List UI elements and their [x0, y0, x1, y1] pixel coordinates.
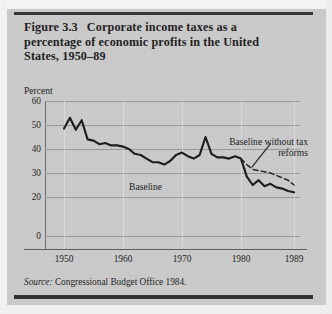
x-tick-label-1950: 1950: [44, 254, 84, 264]
x-tick-label-1989: 1989: [274, 254, 314, 264]
x-axis-line: [24, 249, 307, 250]
y-axis-title: Percent: [24, 85, 53, 96]
figure-source: Source: Congressional Budget Office 1984…: [24, 277, 186, 287]
y-tick-label-30: 30: [24, 168, 41, 178]
page-margin-bottom: [0, 305, 332, 314]
figure-rule-top: [14, 12, 313, 15]
x-tick-label-1960: 1960: [103, 254, 143, 264]
figure-title: Figure 3.3Corporate income taxes as a pe…: [24, 20, 294, 64]
figure-number: Figure 3.3: [24, 20, 78, 34]
y-tick-label-0: 0: [24, 231, 41, 241]
y-tick-label-50: 50: [24, 120, 41, 130]
figure-panel: Figure 3.3Corporate income taxes as a pe…: [0, 0, 332, 314]
y-tick-label-60: 60: [24, 96, 41, 106]
source-word: Source:: [24, 277, 53, 287]
x-tick-label-1970: 1970: [162, 254, 202, 264]
page-margin-top: [0, 0, 332, 9]
page-margin-left: [0, 0, 7, 314]
plot-area: [45, 101, 300, 249]
y-tick-label-20: 20: [24, 192, 41, 202]
figure-rule-bottom: [14, 295, 313, 299]
y-tick-label-40: 40: [24, 144, 41, 154]
page-margin-right: [326, 0, 332, 314]
source-text: Congressional Budget Office 1984.: [53, 277, 187, 287]
series-canvas: [45, 101, 300, 249]
x-tick-label-1980: 1980: [221, 254, 261, 264]
annotation-baseline: Baseline: [129, 181, 162, 192]
annotation-baseline-without-tax-reforms: Baseline without tax reforms: [208, 136, 308, 159]
